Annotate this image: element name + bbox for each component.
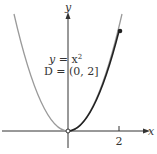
closed-point-2-4: [118, 29, 123, 34]
x-tick-label-2: 2: [116, 135, 123, 148]
x-axis-label: x: [148, 125, 155, 138]
parabola-domain-curve: [68, 31, 119, 131]
y-axis-label: y: [64, 1, 72, 14]
domain-label: D = (0, 2]: [44, 65, 99, 78]
open-point-origin: [66, 129, 70, 133]
graph: y x 2 y = x2 D = (0, 2]: [0, 0, 157, 154]
